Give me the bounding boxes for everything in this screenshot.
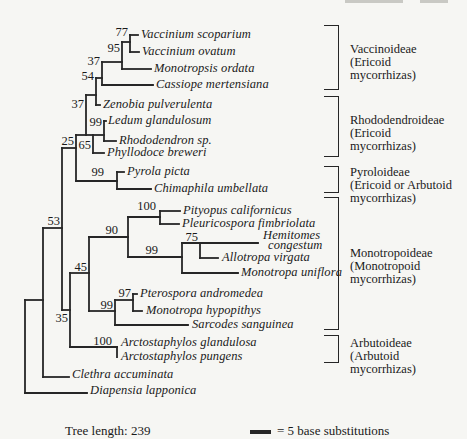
bootstrap-value: 65	[79, 138, 92, 153]
species-label: Monotropa hypopithys	[146, 303, 261, 318]
species-label: Diapensia lapponica	[90, 383, 196, 398]
species-label: Pterospora andromedea	[140, 286, 263, 301]
clade-label-line: mycorrhizas)	[350, 192, 452, 205]
clade-label: Arbutoideae(Arbutoidmycorrhizas)	[350, 337, 416, 376]
species-label: Vaccinium scoparium	[141, 27, 251, 42]
species-label: Arctostaphylos pungens	[121, 349, 243, 364]
tree-length-label: Tree length: 239	[65, 423, 150, 439]
bootstrap-value: 75	[186, 230, 199, 245]
bootstrap-value: 45	[75, 260, 88, 275]
scan-artifact	[420, 0, 448, 3]
bootstrap-value: 37	[88, 54, 101, 69]
clade-bracket	[324, 96, 339, 157]
bootstrap-value: 100	[93, 334, 112, 349]
clade-label-line: mycorrhizas)	[350, 363, 416, 376]
bootstrap-value: 90	[106, 223, 119, 238]
species-label: Vaccinium ovatum	[142, 44, 236, 59]
clade-label: Pyroloideae(Ericoid or Arbutoidmycorrhiz…	[350, 166, 452, 205]
clade-label: Rhododendroideae(Ericoidmycorrhizas)	[350, 114, 444, 153]
species-label: Arctostaphylos glandulosa	[121, 335, 257, 350]
bootstrap-value: 54	[82, 69, 95, 84]
species-label: Clethra accuminata	[72, 367, 173, 382]
bootstrap-value: 99	[146, 243, 159, 258]
species-label: Cassiope mertensiana	[156, 77, 269, 92]
bootstrap-value: 95	[108, 41, 121, 56]
phylogenetic-tree-figure: Vaccinium scopariumVaccinium ovatumMonot…	[0, 0, 467, 439]
species-label: Phyllodoce breweri	[107, 145, 207, 160]
species-label: Chimaphila umbellata	[154, 181, 268, 196]
bootstrap-value: 99	[101, 298, 114, 313]
clade-label-line: mycorrhizas)	[350, 140, 444, 153]
species-label: Pyrola picta	[127, 164, 190, 179]
bootstrap-value: 100	[137, 199, 156, 214]
species-label: Zenobia pulverulenta	[103, 97, 212, 112]
species-label: Sarcodes sanguinea	[192, 317, 294, 332]
clade-label: Vaccinoideae(Ericoidmycorrhizas)	[350, 43, 417, 82]
bootstrap-value: 77	[116, 25, 129, 40]
species-label: Ledum glandulosum	[108, 113, 211, 128]
species-label: Allotropa virgata	[222, 250, 310, 265]
bootstrap-value: 99	[92, 165, 105, 180]
scan-artifact	[345, 0, 403, 3]
clade-label-line: mycorrhizas)	[350, 69, 417, 82]
bootstrap-value: 25	[62, 134, 75, 149]
bootstrap-value: 35	[56, 311, 69, 326]
species-label: Monotropsis ordata	[154, 61, 255, 76]
clade-bracket	[324, 166, 339, 193]
clade-bracket	[324, 335, 339, 363]
clade-bracket	[324, 197, 339, 330]
bootstrap-value: 97	[119, 286, 132, 301]
scale-legend-label: = 5 base substitutions	[277, 423, 389, 439]
scale-bar-glyph	[250, 430, 271, 434]
clade-bracket	[324, 25, 339, 90]
clade-label: Monotropoideae(Monotropoidmycorrhizas)	[350, 247, 433, 286]
bootstrap-value: 99	[90, 115, 103, 130]
bootstrap-value: 53	[48, 214, 61, 229]
bootstrap-value: 37	[72, 97, 85, 112]
clade-label-line: mycorrhizas)	[350, 273, 433, 286]
